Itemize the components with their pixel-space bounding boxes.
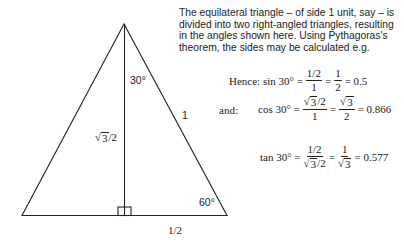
fraction: 1 2 (334, 68, 342, 93)
height-label: √3 /2 (95, 132, 117, 144)
hypotenuse-label: 1 (182, 110, 188, 121)
description-text: The equilateral triangle – of side 1 uni… (179, 7, 404, 53)
half-base-label: 1/2 (168, 225, 182, 236)
trig-diagram: 30° 1 60° √3 /2 1/2 The equilateral tria… (0, 0, 404, 248)
cos-lead-label: and: (218, 104, 239, 116)
tan-equation: tan 30° = 1/2 √3/2 = 1 √3 = 0.577 (259, 144, 389, 170)
sqrt-expression: √3 (95, 132, 109, 144)
cos-equation: cos 30° = √3/2 1 = √3 2 = 0.866 (257, 96, 392, 122)
fraction: √3/2 1 (303, 96, 327, 122)
fraction: 1/2 √3/2 (304, 144, 326, 170)
sin-equation: Hence: sin 30° = 1/2 1 = 1 2 = 0.5 (228, 68, 368, 93)
base-angle-label: 60° (199, 197, 215, 208)
fraction: 1/2 1 (306, 68, 322, 93)
fraction: 1 √3 (338, 144, 352, 170)
fraction: √3 2 (339, 96, 355, 122)
apex-angle-label: 30° (130, 75, 146, 86)
